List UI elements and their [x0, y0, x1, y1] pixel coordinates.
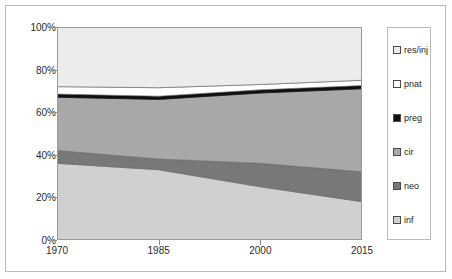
legend-swatch-icon	[393, 182, 401, 190]
x-tick-label: 2015	[351, 245, 373, 256]
legend-item-cir[interactable]: cir	[393, 147, 414, 157]
legend-item-res-inj[interactable]: res/inj	[393, 45, 428, 55]
legend-swatch-icon	[393, 80, 401, 88]
x-tick-label: 2000	[249, 245, 271, 256]
y-tick-label: 60%	[0, 107, 56, 118]
legend-item-pnat[interactable]: pnat	[393, 79, 422, 89]
y-tick-label: 100%	[0, 22, 56, 33]
legend-swatch-icon	[393, 114, 401, 122]
y-tick-label: 40%	[0, 149, 56, 160]
legend-label: pnat	[404, 79, 422, 89]
legend-item-neo[interactable]: neo	[393, 181, 419, 191]
legend-swatch-icon	[393, 46, 401, 54]
legend-label: inf	[404, 215, 414, 225]
y-tick-label: 80%	[0, 64, 56, 75]
legend-swatch-icon	[393, 148, 401, 156]
chart-legend: res/injpnatpregcirneoinf	[387, 27, 431, 240]
legend-label: res/inj	[404, 45, 428, 55]
x-tick-label: 1970	[46, 245, 68, 256]
y-tick-mark	[52, 240, 57, 241]
legend-label: preg	[404, 113, 422, 123]
legend-label: cir	[404, 147, 414, 157]
legend-item-preg[interactable]: preg	[393, 113, 422, 123]
legend-item-inf[interactable]: inf	[393, 215, 414, 225]
area-series-res-inj	[57, 27, 362, 88]
x-tick-mark	[260, 240, 261, 245]
x-tick-mark	[159, 240, 160, 245]
chart-figure: 0%20%40%60%80%100% 1970198520002015 res/…	[0, 0, 452, 279]
legend-swatch-icon	[393, 216, 401, 224]
y-tick-label: 0%	[0, 235, 56, 246]
stacked-area-series	[57, 27, 362, 240]
x-tick-label: 1985	[148, 245, 170, 256]
y-tick-label: 20%	[0, 192, 56, 203]
plot-area	[57, 27, 362, 240]
legend-label: neo	[404, 181, 419, 191]
